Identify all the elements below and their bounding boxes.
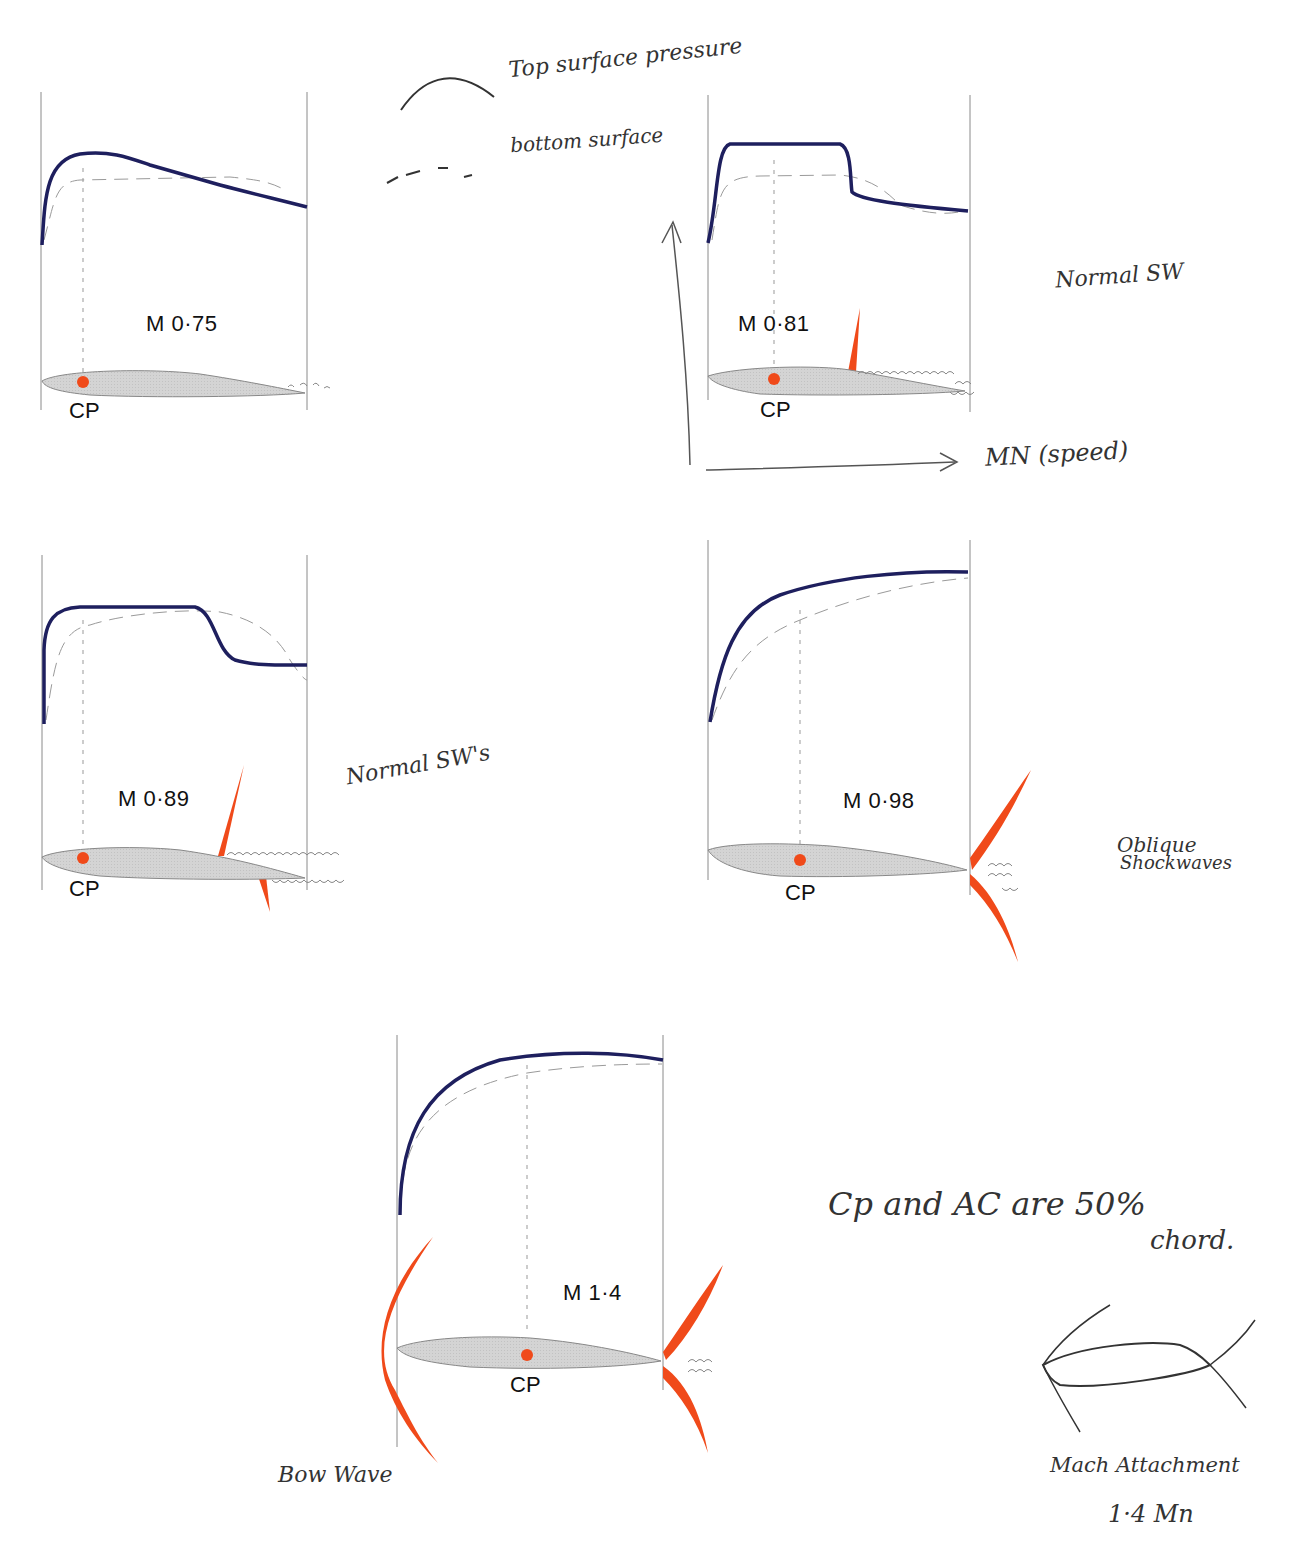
mach-label-m098: M 0·98: [843, 788, 914, 814]
cp-dot: [77, 376, 89, 388]
mach-label-m089: M 0·89: [118, 786, 189, 812]
panel-m14: [381, 1035, 723, 1463]
shockwave-upper: [218, 765, 244, 856]
cp-label-m081: CP: [760, 397, 791, 423]
note-cp-ac-line1: Cp and AC are 50%: [828, 1185, 1146, 1223]
note-cp-ac-line2: chord.: [1150, 1225, 1234, 1255]
cp-dot: [794, 854, 806, 866]
legend-bottom-surface-dashed-line: [387, 168, 472, 183]
cp-label-m14: CP: [510, 1372, 541, 1398]
legend: [387, 78, 494, 183]
legend-top-surface-line: [401, 78, 494, 110]
airfoil: [708, 844, 967, 877]
cp-dot: [768, 373, 780, 385]
mach-label-m14: M 1·4: [563, 1280, 622, 1306]
panel-m089: [42, 555, 344, 912]
cp-label-m075: CP: [69, 398, 100, 424]
bottom-surface-curve: [44, 177, 285, 240]
wake-squiggle: [288, 383, 330, 388]
mach-label-m075: M 0·75: [146, 311, 217, 337]
note-mach-attachment-value: 1·4 Mn: [1108, 1500, 1194, 1528]
panel-m075: [41, 92, 330, 410]
bottom-surface-curve: [403, 1064, 662, 1180]
note-bow-wave: Bow Wave: [278, 1462, 393, 1487]
oblique-shockwave-lower: [663, 1366, 708, 1453]
bottom-surface-curve: [712, 578, 968, 720]
wake-squiggle: [988, 864, 1018, 891]
shockwave-lower: [258, 876, 270, 912]
panel-m098: [708, 540, 1031, 962]
cp-dot: [77, 852, 89, 864]
diagram-canvas: [0, 0, 1290, 1562]
cp-dot: [521, 1349, 533, 1361]
mach-label-m081: M 0·81: [738, 311, 809, 337]
top-surface-curve: [42, 153, 307, 245]
top-surface-curve: [710, 572, 968, 722]
top-surface-curve: [400, 1053, 663, 1215]
cp-label-m089: CP: [69, 876, 100, 902]
cp-label-m098: CP: [785, 880, 816, 906]
speed-axis: [662, 222, 957, 471]
note-shockwaves: Shockwaves: [1120, 852, 1232, 873]
note-mach-attachment: Mach Attachment: [1050, 1453, 1240, 1477]
top-surface-curve: [44, 607, 307, 724]
mach-attachment-sketch: [1043, 1305, 1255, 1432]
panel-m081: [708, 95, 974, 412]
top-surface-curve: [708, 144, 968, 243]
oblique-shockwave-upper: [970, 770, 1031, 870]
wake-squiggle: [688, 1360, 712, 1373]
shockwave: [848, 308, 860, 372]
oblique-shockwave-upper: [663, 1265, 723, 1360]
oblique-shockwave-lower: [970, 874, 1018, 962]
